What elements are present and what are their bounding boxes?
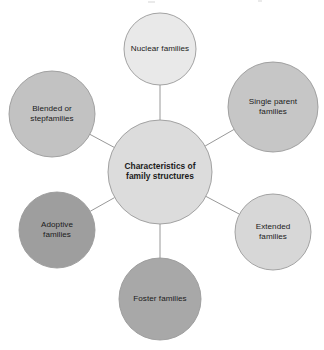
connector-blended: [90, 134, 114, 147]
connector-extended: [206, 196, 240, 214]
node-extended: [235, 194, 311, 270]
connector-adoptive: [90, 198, 115, 212]
node-adoptive: [19, 192, 95, 268]
diagram-canvas: [0, 0, 324, 350]
node-single-parent: [228, 62, 318, 152]
connector-single-parent: [205, 129, 234, 146]
node-foster: [119, 258, 201, 340]
center-node-center: [108, 120, 212, 224]
node-nuclear: [124, 13, 196, 85]
family-structures-diagram: Characteristics of family structures Nuc…: [0, 0, 324, 350]
node-circles: [9, 13, 318, 340]
node-blended: [9, 71, 95, 157]
